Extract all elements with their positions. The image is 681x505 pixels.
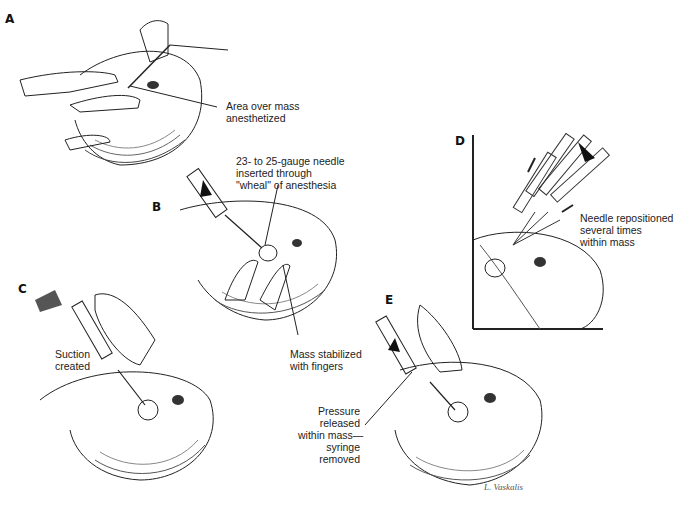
- panel-b-illustration: [180, 169, 337, 335]
- label-mass-stabilized: Mass stabilized with fingers: [290, 348, 362, 372]
- panel-letter-a: A: [5, 12, 14, 26]
- label-pressure-released: Pressure released within mass— syringe r…: [298, 405, 360, 465]
- panel-letter-e: E: [385, 293, 393, 307]
- label-needle-inserted: 23- to 25-gauge needle inserted through …: [236, 155, 345, 191]
- artist-signature: L. Vaskalis: [484, 482, 523, 492]
- panel-c-illustration: [35, 290, 213, 480]
- panel-a-illustration: [20, 21, 228, 165]
- panel-e-illustration: [0, 0, 542, 485]
- panel-letter-b: B: [152, 200, 161, 214]
- panel-letter-d: D: [455, 134, 465, 148]
- label-area-over-mass-anesthetized: Area over mass anesthetized: [226, 100, 300, 124]
- panel-letter-c: C: [18, 282, 27, 296]
- label-needle-repositioned: Needle repositioned several times within…: [580, 212, 673, 248]
- label-suction-created: Suction created: [55, 348, 90, 372]
